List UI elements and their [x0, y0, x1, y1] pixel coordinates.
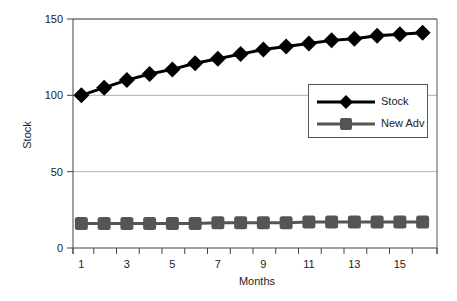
legend-label: New Adv: [381, 117, 424, 129]
diamond-data-point: [346, 31, 362, 47]
square-data-point: [166, 217, 179, 230]
x-tick-label: 7: [215, 258, 221, 270]
x-axis-title: Months: [239, 275, 276, 287]
series-new-adv: [75, 216, 429, 231]
diamond-data-point: [415, 25, 431, 41]
diamond-data-point: [369, 28, 385, 44]
square-data-point: [120, 217, 133, 230]
line-chart: 05010015013579111315 Stock Months: [0, 0, 457, 301]
diamond-data-point: [187, 55, 203, 71]
legend-item-stock: Stock: [309, 94, 427, 110]
square-data-point: [143, 217, 156, 230]
x-tick-label: 11: [303, 258, 314, 270]
square-data-point: [416, 216, 429, 229]
chart-legend: Stock New Adv: [308, 84, 428, 138]
x-tick-label: 1: [78, 258, 84, 270]
diamond-data-point: [233, 46, 249, 62]
square-data-point: [393, 216, 406, 229]
square-data-point: [371, 216, 384, 229]
diamond-data-point: [255, 42, 271, 58]
square-data-point: [280, 216, 293, 229]
x-tick-label: 13: [348, 258, 360, 270]
legend-item-new-adv: New Adv: [309, 116, 427, 132]
diamond-data-point: [142, 66, 158, 82]
square-data-point: [325, 216, 338, 229]
diamond-data-point: [392, 26, 408, 42]
diamond-data-point: [324, 32, 340, 48]
diamond-data-point: [210, 51, 226, 67]
x-tick-label: 9: [260, 258, 266, 270]
y-tick-label: 0: [57, 242, 63, 254]
legend-label: Stock: [381, 95, 409, 107]
y-tick-label: 50: [51, 166, 63, 178]
square-data-point: [302, 216, 315, 229]
y-tick-label: 150: [45, 13, 63, 25]
square-data-point: [211, 216, 224, 229]
y-axis-title: Stock: [21, 121, 33, 149]
square-data-point: [257, 216, 270, 229]
square-marker-icon: [317, 116, 377, 132]
square-data-point: [75, 217, 88, 230]
diamond-data-point: [73, 87, 89, 103]
x-tick-label: 5: [169, 258, 175, 270]
x-tick-label: 15: [394, 258, 406, 270]
square-data-point: [189, 217, 202, 230]
diamond-data-point: [278, 38, 294, 54]
diamond-data-point: [164, 61, 180, 77]
diamond-marker-icon: [317, 94, 377, 110]
square-data-point: [98, 217, 111, 230]
diamond-data-point: [96, 80, 112, 96]
x-tick-label: 3: [124, 258, 130, 270]
y-tick-label: 100: [45, 89, 63, 101]
diamond-data-point: [301, 35, 317, 51]
diamond-data-point: [119, 72, 135, 88]
square-data-point: [348, 216, 361, 229]
square-data-point: [234, 216, 247, 229]
